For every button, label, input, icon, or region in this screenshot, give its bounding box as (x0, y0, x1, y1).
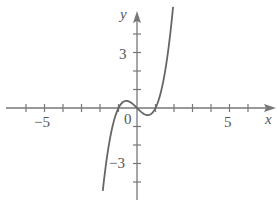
axes (6, 11, 276, 200)
x-axis-label: x (264, 111, 272, 127)
y-axis-label: y (118, 6, 127, 22)
cubic-function-graph: y x −5 0 5 3 −3 (0, 0, 277, 209)
origin-label: 0 (124, 111, 132, 127)
x-tick-label-5: 5 (224, 114, 232, 130)
x-tick-label-neg5: −5 (34, 114, 50, 130)
y-tick-label-3: 3 (119, 46, 127, 62)
y-tick-label-neg3: −3 (109, 155, 125, 171)
